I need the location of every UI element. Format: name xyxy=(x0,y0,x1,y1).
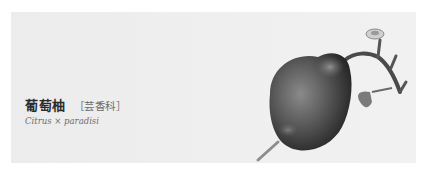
title-row: 葡萄柚 ［芸香科］ xyxy=(25,95,126,114)
common-name: 葡萄柚 xyxy=(25,95,66,114)
family-label: ［芸香科］ xyxy=(74,98,127,113)
scientific-name: Citrus × paradisi xyxy=(25,116,99,126)
grapefruit-illustration-icon xyxy=(250,12,416,163)
